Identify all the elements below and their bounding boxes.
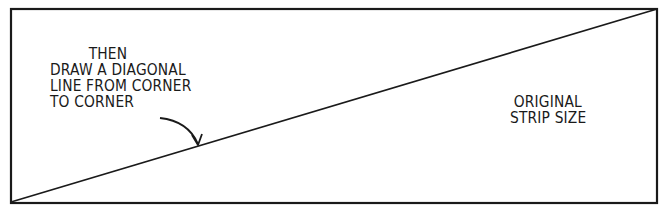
instruction-line-4: TO CORNER bbox=[50, 94, 192, 110]
instruction-text: THEN DRAW A DIAGONAL LINE FROM CORNER TO… bbox=[50, 46, 192, 110]
strip-label-line-2: STRIP SIZE bbox=[510, 110, 586, 126]
instruction-line-3: LINE FROM CORNER bbox=[50, 78, 192, 94]
strip-label-line-1: ORIGINAL bbox=[510, 94, 586, 110]
instruction-line-2: DRAW A DIAGONAL bbox=[50, 62, 192, 78]
instruction-line-1: THEN bbox=[50, 46, 192, 62]
curved-arrow-icon bbox=[160, 118, 198, 144]
strip-size-label: ORIGINAL STRIP SIZE bbox=[510, 94, 586, 126]
